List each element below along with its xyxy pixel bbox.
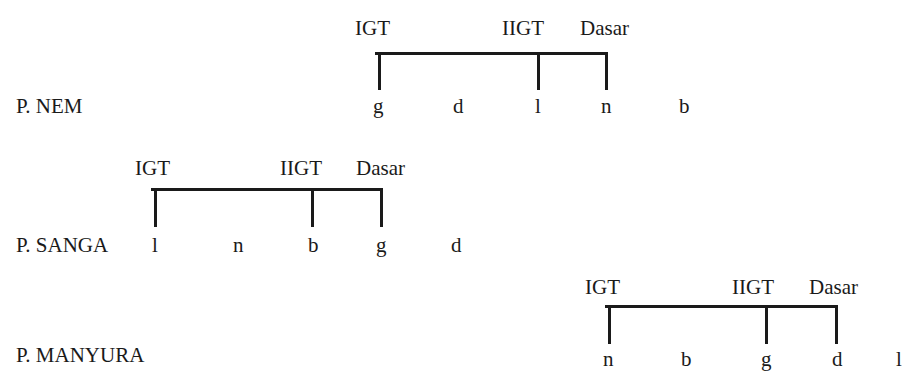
sequence-letter: b	[679, 96, 690, 117]
bracket-horizontal-line	[375, 52, 608, 55]
sequence-letter: d	[832, 349, 843, 370]
sequence-letter: d	[453, 96, 464, 117]
sequence-letter: b	[681, 349, 692, 370]
sequence-letter: n	[603, 349, 614, 370]
sequence-letter: g	[761, 349, 772, 370]
bracket-tick-iigt	[311, 191, 314, 227]
marker-iigt: IIGT	[280, 158, 322, 179]
marker-igt: IGT	[585, 277, 620, 298]
bracket-tick-dasar	[380, 191, 383, 227]
sequence-letter: b	[308, 235, 319, 256]
bracket-tick-igt	[154, 191, 157, 227]
sequence-letter: g	[373, 96, 384, 117]
bracket-tick-igt	[378, 55, 381, 90]
marker-iigt: IIGT	[502, 18, 544, 39]
marker-dasar: Dasar	[580, 18, 629, 39]
row-label: P. NEM	[16, 96, 83, 117]
sequence-letter: n	[601, 96, 612, 117]
bracket-tick-iigt	[537, 55, 540, 90]
bracket-tick-iigt	[765, 308, 768, 344]
bracket-horizontal-line	[605, 305, 838, 308]
marker-dasar: Dasar	[356, 158, 405, 179]
marker-iigt: IIGT	[732, 277, 774, 298]
sequence-letter: l	[535, 96, 541, 117]
marker-igt: IGT	[355, 18, 390, 39]
marker-igt: IGT	[135, 158, 170, 179]
sequence-letter: l	[152, 235, 158, 256]
sequence-letter: n	[233, 235, 244, 256]
row-label: P. SANGA	[16, 235, 108, 256]
marker-dasar: Dasar	[809, 277, 858, 298]
bracket-tick-dasar	[605, 55, 608, 90]
sequence-letter: l	[896, 349, 902, 370]
bracket-tick-igt	[608, 308, 611, 344]
row-label: P. MANYURA	[16, 345, 144, 366]
bracket-horizontal-line	[151, 188, 383, 191]
sequence-letter: g	[376, 235, 387, 256]
sequence-letter: d	[451, 235, 462, 256]
bracket-tick-dasar	[835, 308, 838, 344]
